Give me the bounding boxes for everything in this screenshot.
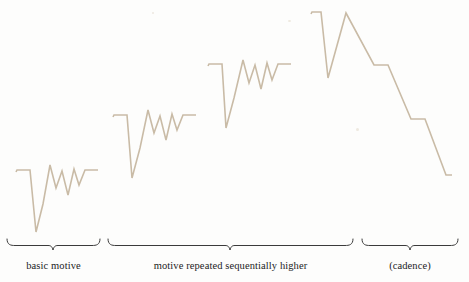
contour-canvas (0, 0, 469, 282)
contour-basic-motive (16, 165, 98, 232)
melodic-contour-figure: basic motive motive repeated sequentiall… (0, 0, 469, 282)
contour-statement-3 (208, 60, 291, 128)
contour-statement-2 (113, 110, 196, 178)
bracket-cadence (362, 239, 458, 250)
caption-cadence: (cadence) (362, 259, 458, 272)
bracket-motive-repeated (108, 239, 353, 250)
contour-lines (16, 12, 452, 232)
caption-basic-motive: basic motive (7, 259, 100, 272)
caption-motive-repeated: motive repeated sequentially higher (108, 259, 353, 272)
section-brackets (7, 239, 458, 250)
bracket-basic-motive (7, 239, 100, 250)
contour-cadence (311, 12, 452, 175)
